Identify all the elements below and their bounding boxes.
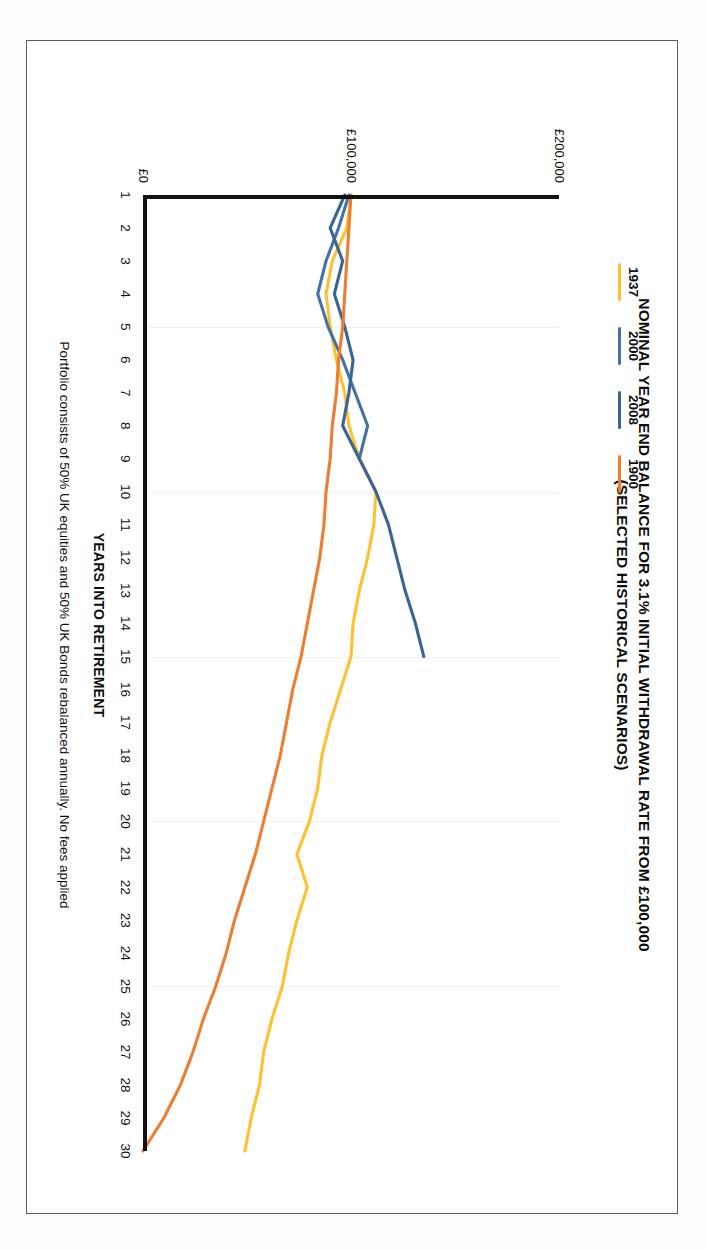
x-axis-title: YEARS INTO RETIREMENT [91, 45, 107, 1205]
x-tick-label: 6 [118, 356, 133, 364]
x-tick-label: 8 [118, 421, 133, 429]
legend-item-1900[interactable]: 1900 [617, 455, 640, 493]
rotated-chart-wrapper: NOMINAL YEAR END BALANCE FOR 3.1% INITIA… [39, 45, 669, 1205]
y-axis-line [143, 195, 559, 199]
x-tick-label: 19 [118, 780, 133, 795]
x-tick-label: 4 [118, 290, 133, 298]
legend-swatch-icon [617, 327, 620, 365]
y-tick-label: £0 [135, 168, 150, 182]
x-tick-label: 18 [118, 747, 133, 762]
legend-swatch-icon [617, 263, 620, 301]
series-line-1937 [244, 195, 375, 1151]
x-tick-label: 23 [118, 912, 133, 927]
x-tick-label: 13 [118, 583, 133, 598]
x-tick-label: 10 [118, 484, 133, 499]
legend-item-2008[interactable]: 2008 [617, 391, 640, 429]
plot-area: £0£100,000£200,000 123456789101112131415… [143, 195, 559, 1151]
x-tick-label: 14 [118, 616, 133, 631]
plot-inner: £0£100,000£200,000 123456789101112131415… [143, 195, 559, 1151]
x-tick-label: 11 [118, 517, 133, 531]
chart-legend: 1937200020081900 [617, 263, 640, 493]
x-tick-label: 1 [118, 191, 133, 199]
scanned-page: NOMINAL YEAR END BALANCE FOR 3.1% INITIA… [0, 0, 707, 1249]
chart-title-line-1: NOMINAL YEAR END BALANCE FOR 3.1% INITIA… [632, 45, 654, 1205]
y-tick-label: £100,000 [343, 128, 358, 182]
legend-label: 1937 [626, 266, 641, 296]
chart-title-line-2: (SELECTED HISTORICAL SCENARIOS) [610, 45, 632, 1205]
x-tick-label: 7 [118, 389, 133, 397]
chart-title: NOMINAL YEAR END BALANCE FOR 3.1% INITIA… [610, 45, 655, 1205]
legend-label: 2000 [626, 330, 641, 360]
x-tick-label: 9 [118, 454, 133, 462]
x-tick-label: 21 [118, 846, 133, 861]
x-tick-label: 27 [118, 1044, 133, 1059]
x-tick-label: 20 [118, 813, 133, 828]
x-tick-label: 16 [118, 681, 133, 696]
series-lines [143, 195, 559, 1151]
legend-label: 2008 [626, 394, 641, 424]
x-tick-label: 28 [118, 1077, 133, 1092]
series-line-1900 [143, 195, 351, 1151]
legend-item-1937[interactable]: 1937 [617, 263, 640, 301]
x-tick-label: 30 [118, 1143, 133, 1158]
x-tick-label: 25 [118, 978, 133, 993]
x-tick-label: 2 [118, 224, 133, 232]
legend-swatch-icon [617, 391, 620, 429]
chart-footnote: Portfolio consists of 50% UK equities an… [57, 45, 72, 1205]
x-tick-label: 12 [118, 550, 133, 565]
x-tick-label: 29 [118, 1110, 133, 1125]
x-tick-label: 3 [118, 257, 133, 265]
legend-label: 1900 [626, 458, 641, 488]
x-tick-label: 26 [118, 1011, 133, 1026]
x-axis-line [143, 195, 147, 1151]
series-line-2008 [330, 195, 424, 657]
x-tick-label: 17 [118, 714, 133, 729]
x-tick-label: 5 [118, 323, 133, 331]
x-tick-label: 15 [118, 649, 133, 664]
legend-item-2000[interactable]: 2000 [617, 327, 640, 365]
y-tick-label: £200,000 [551, 128, 566, 182]
x-tick-label: 24 [118, 945, 133, 960]
line-chart: NOMINAL YEAR END BALANCE FOR 3.1% INITIA… [39, 45, 669, 1205]
x-tick-label: 22 [118, 879, 133, 894]
legend-swatch-icon [617, 455, 620, 493]
